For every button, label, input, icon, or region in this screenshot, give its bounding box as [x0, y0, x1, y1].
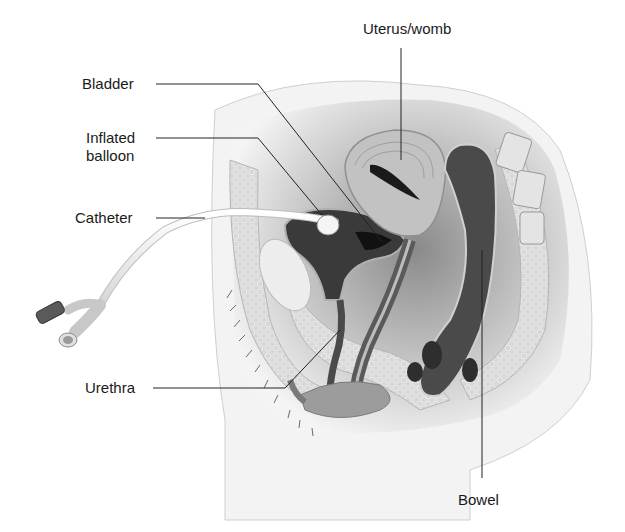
label-bladder: Bladder [82, 75, 134, 93]
label-uterus: Uterus/womb [363, 20, 451, 38]
label-bowel: Bowel [458, 491, 499, 509]
anatomy-diagram: Uterus/womb Bladder Inflated balloon Cat… [0, 0, 625, 532]
label-urethra: Urethra [85, 379, 135, 397]
label-inflated-balloon-line1: Inflated [86, 129, 135, 147]
label-catheter: Catheter [75, 209, 133, 227]
label-inflated-balloon-line2: balloon [86, 147, 134, 165]
